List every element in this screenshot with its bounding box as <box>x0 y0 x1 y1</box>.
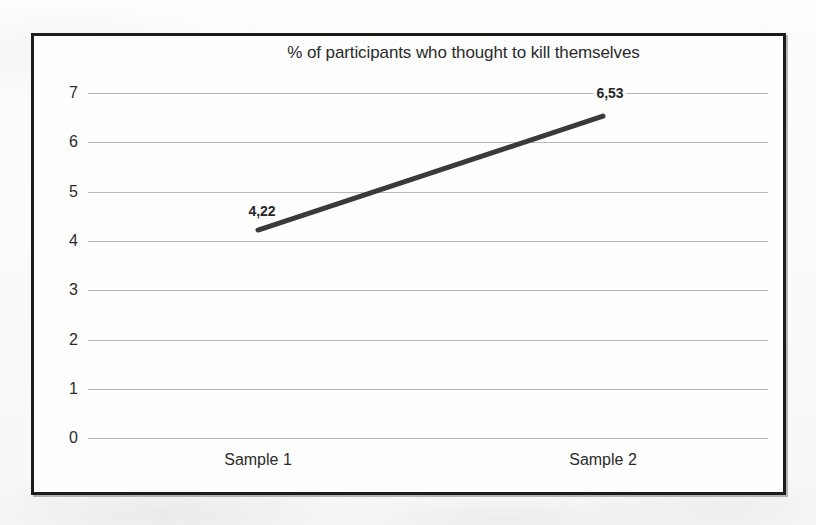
data-label-sample-2: 6,53 <box>593 85 626 101</box>
chart-frame: % of participants who thought to kill th… <box>31 33 786 495</box>
data-label-sample-1: 4,22 <box>245 203 278 219</box>
x-axis-tick-sample-1: Sample 1 <box>224 451 292 469</box>
series-line-group <box>34 36 783 492</box>
x-axis-tick-sample-2: Sample 2 <box>569 451 637 469</box>
plot-area: % of participants who thought to kill th… <box>34 36 783 492</box>
series-line-segment <box>258 116 603 230</box>
